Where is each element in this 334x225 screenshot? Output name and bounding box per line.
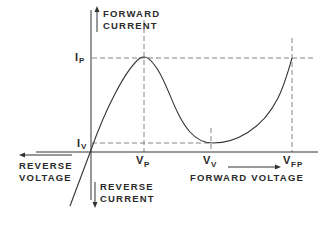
vfp-label: V FP bbox=[283, 154, 304, 169]
forward-current-arrow-icon bbox=[95, 6, 100, 32]
svg-text:P: P bbox=[144, 160, 151, 169]
iv-characteristic-diagram: FORWARD CURRENT REVERSE CURRENT REVERSE … bbox=[0, 0, 334, 225]
svg-text:P: P bbox=[79, 56, 86, 65]
svg-text:V: V bbox=[211, 160, 218, 169]
reverse-voltage-label-line2: VOLTAGE bbox=[19, 172, 72, 183]
ip-label: I P bbox=[75, 51, 86, 65]
reference-dashes bbox=[92, 20, 316, 152]
forward-current-label-line2: CURRENT bbox=[103, 20, 158, 31]
reverse-voltage-arrow-icon bbox=[19, 153, 72, 158]
svg-text:V: V bbox=[81, 142, 88, 151]
reverse-current-label-line2: CURRENT bbox=[100, 193, 155, 204]
forward-voltage-label: FORWARD VOLTAGE bbox=[190, 172, 304, 183]
svg-text:FP: FP bbox=[291, 160, 304, 169]
forward-voltage-arrow-icon bbox=[228, 165, 281, 170]
reverse-voltage-label-line1: REVERSE bbox=[19, 160, 73, 171]
vv-label: V V bbox=[203, 154, 218, 169]
vp-label: V P bbox=[136, 154, 151, 169]
forward-current-label-line1: FORWARD bbox=[103, 8, 160, 19]
iv-label: I V bbox=[77, 137, 88, 151]
reverse-current-label-line1: REVERSE bbox=[100, 181, 154, 192]
reverse-current-arrow-icon bbox=[93, 182, 98, 208]
